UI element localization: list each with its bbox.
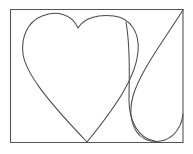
drawing-canvas: Hand-drawn heart and teardrop loop insid… (0, 0, 193, 154)
line-drawing (0, 0, 193, 154)
